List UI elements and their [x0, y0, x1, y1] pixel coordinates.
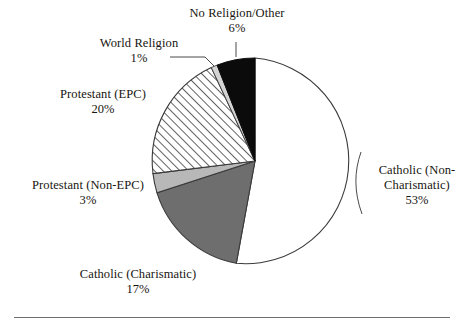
leader-line-catholic-non-charismatic [356, 152, 362, 214]
pie-label-catholic-charismatic-name: Catholic (Charismatic) [52, 267, 224, 282]
pie-label-catholic-non-charismatic-name-line1: Catholic (Non- [368, 163, 466, 178]
pie-chart-figure: No Religion/Other 6% World Religion 1% P… [0, 0, 467, 325]
pie-label-protestant-non-epc-name: Protestant (Non-EPC) [2, 178, 174, 193]
pie-label-protestant-epc-value: 20% [27, 102, 179, 117]
pie-label-catholic-charismatic: Catholic (Charismatic) 17% [52, 267, 224, 297]
pie-label-no-religion-other-value: 6% [157, 21, 317, 36]
pie-label-catholic-non-charismatic-name-line2: Charismatic) [368, 178, 466, 193]
pie-label-world-religion: World Religion 1% [66, 36, 212, 66]
footer-divider-rule [14, 317, 450, 318]
pie-label-protestant-epc-name: Protestant (EPC) [27, 87, 179, 102]
pie-label-world-religion-name: World Religion [66, 36, 212, 51]
pie-label-world-religion-value: 1% [66, 51, 212, 66]
pie-label-protestant-non-epc: Protestant (Non-EPC) 3% [2, 178, 174, 208]
pie-label-catholic-non-charismatic: Catholic (Non- Charismatic) 53% [368, 163, 466, 207]
pie-label-protestant-epc: Protestant (EPC) 20% [27, 87, 179, 117]
pie-label-protestant-non-epc-value: 3% [2, 193, 174, 208]
pie-label-catholic-non-charismatic-value: 53% [368, 193, 466, 208]
pie-label-no-religion-other-name: No Religion/Other [157, 6, 317, 21]
pie-label-catholic-charismatic-value: 17% [52, 282, 224, 297]
pie-label-no-religion-other: No Religion/Other 6% [157, 6, 317, 36]
